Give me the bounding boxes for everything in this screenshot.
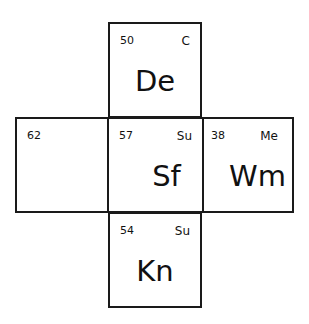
cell-tag: Me xyxy=(260,129,278,143)
cell-left: 62 xyxy=(15,117,109,213)
cell-center: 57 Su Sf xyxy=(107,117,204,213)
cell-symbol: De xyxy=(110,64,200,98)
cell-symbol: Wm xyxy=(229,159,286,193)
cell-tag: Su xyxy=(177,129,192,143)
cell-number: 57 xyxy=(119,129,133,142)
cell-number: 54 xyxy=(120,224,134,237)
cell-tag: Su xyxy=(175,224,190,238)
cell-symbol: Sf xyxy=(131,159,202,193)
cell-number: 50 xyxy=(120,34,134,47)
cell-number: 38 xyxy=(211,129,225,142)
cell-right: 38 Me Wm xyxy=(202,117,294,213)
cell-tag: C xyxy=(182,34,190,48)
cell-symbol: Kn xyxy=(110,254,200,288)
cell-number: 62 xyxy=(27,129,41,142)
cell-bottom: 54 Su Kn xyxy=(108,212,202,308)
cell-top: 50 C De xyxy=(108,22,202,118)
